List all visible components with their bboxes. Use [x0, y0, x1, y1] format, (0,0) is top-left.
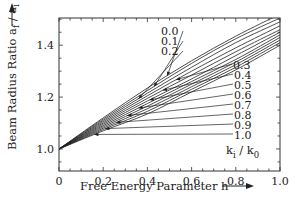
curve-label: 1.0: [234, 129, 252, 142]
y-tick-label: 1.0: [37, 143, 55, 156]
chart: 00.20.40.60.81.01.01.21.4 0.00.10.20.30.…: [0, 0, 298, 203]
x-axis-label: Free Energy Parameter h: [80, 179, 229, 193]
legend-title: ki / k0: [226, 143, 259, 160]
y-tick-label: 1.4: [37, 39, 55, 52]
svg-text:Beam Radius Ratio af / ai: Beam Radius Ratio af / ai: [5, 4, 21, 150]
x-tick-label: 0: [56, 175, 63, 188]
curve-label: 0.2: [161, 45, 179, 58]
y-axis-label: Beam Radius Ratio af / ai: [5, 4, 21, 150]
y-tick-label: 1.2: [37, 91, 55, 104]
x-tick-label: 1.0: [271, 175, 289, 188]
